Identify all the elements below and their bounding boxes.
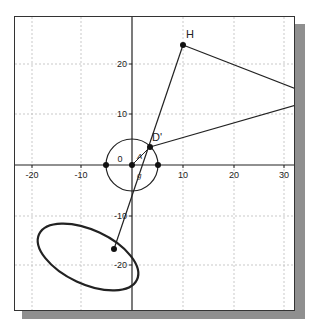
x-tick-label: 30 [279, 170, 289, 180]
point-right-on-circle[interactable] [155, 162, 161, 168]
origin-label: 0 [117, 154, 122, 164]
point-h[interactable] [180, 42, 186, 48]
label-segment-g: g [137, 171, 142, 180]
ray-dprime-right[interactable] [150, 105, 296, 147]
x-tick-label: -10 [74, 170, 87, 180]
point-dprime[interactable] [147, 144, 153, 150]
x-tick-label: -20 [25, 170, 38, 180]
segment-h-right[interactable] [183, 45, 296, 89]
point-on-ellipse[interactable] [111, 246, 117, 252]
label-h: H [186, 28, 194, 40]
point-left-on-circle[interactable] [103, 162, 109, 168]
label-segment-a: A [136, 152, 142, 161]
y-tick-label: 20 [117, 59, 127, 69]
ellipse[interactable] [28, 210, 149, 305]
y-tick-label: -20 [114, 260, 127, 270]
x-tick-label: 10 [178, 170, 188, 180]
point-origin[interactable] [129, 162, 135, 168]
y-tick-label: -10 [114, 211, 127, 221]
grid [15, 17, 294, 310]
x-tick-label: 20 [229, 170, 239, 180]
y-tick-label: 10 [117, 109, 127, 119]
graphing-canvas[interactable]: -20 -10 10 20 30 20 10 -10 -20 0 H D' A … [0, 0, 315, 334]
label-dprime: D' [152, 131, 162, 143]
